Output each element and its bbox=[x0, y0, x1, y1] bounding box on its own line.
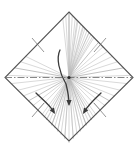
center-dot bbox=[67, 76, 70, 79]
ray-line bbox=[69, 62, 118, 78]
ray-line bbox=[69, 24, 80, 78]
ray-line bbox=[63, 18, 69, 77]
ray-line bbox=[66, 15, 69, 77]
ray-line bbox=[26, 56, 69, 77]
technical-diagram bbox=[0, 0, 138, 150]
diagram-canvas bbox=[0, 0, 138, 150]
center-convergence-point bbox=[67, 76, 70, 79]
